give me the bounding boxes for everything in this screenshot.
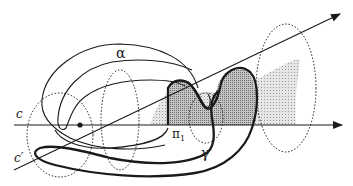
curve-alpha-loop (55, 128, 168, 148)
label-pi: π (172, 127, 180, 141)
label-alpha: α (116, 46, 125, 60)
label-pi1: π1 (172, 128, 185, 143)
label-c: c (16, 108, 23, 120)
label-c-prime: c′ (14, 152, 23, 164)
label-pi-subscript: 1 (180, 134, 185, 143)
label-gamma: γ (201, 146, 209, 160)
dotted-ellipse-mid (101, 70, 139, 170)
diagram-canvas (0, 0, 353, 186)
topology-diagram: α c c′ π1 γ (0, 0, 353, 186)
origin-point (77, 122, 82, 127)
